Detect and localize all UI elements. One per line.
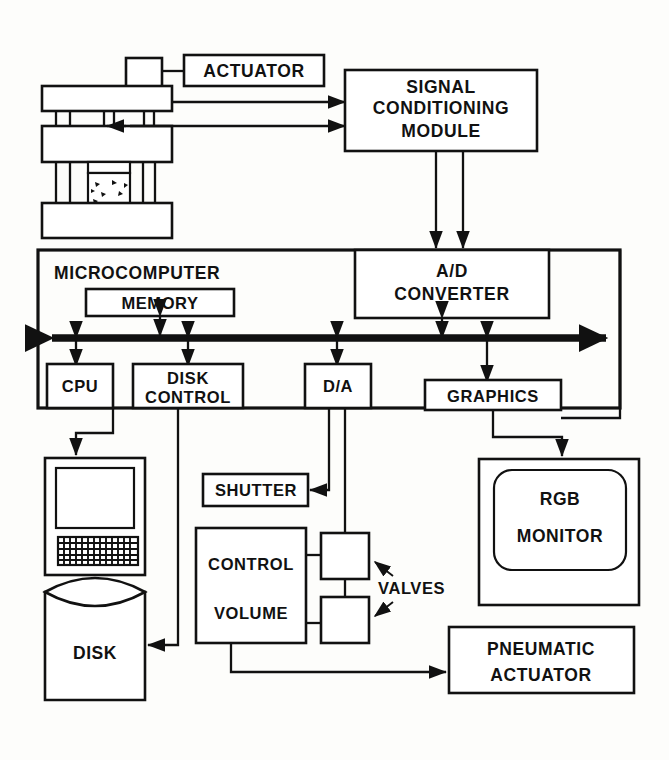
piston-block (126, 58, 162, 87)
signal-conditioning-module-block[interactable]: SIGNAL CONDITIONING MODULE (345, 70, 537, 248)
shutter-label: SHUTTER (215, 481, 297, 499)
terminal-screen (56, 468, 134, 528)
disk-label: DISK (73, 643, 117, 663)
control-volume-to-pneumatic-line (231, 643, 446, 672)
actuator-label: ACTUATOR (203, 61, 304, 81)
block-diagram-canvas: ACTUATOR SIGNAL CONDITIONING MODULE MICR… (0, 0, 669, 760)
top-crosshead (42, 86, 172, 111)
microcomputer-label: MICROCOMPUTER (54, 263, 220, 283)
valve-box-upper[interactable] (321, 533, 369, 579)
control-volume-block[interactable]: CONTROL VOLUME (196, 528, 306, 643)
ad-converter-label-line2: CONVERTER (394, 284, 509, 304)
memory-label: MEMORY (121, 294, 198, 312)
valves-pointer-lower (375, 602, 393, 616)
valves-pointer-upper (375, 562, 393, 576)
control-volume-label-line2: VOLUME (214, 604, 288, 622)
terminal-workstation (45, 458, 145, 575)
signal-conditioning-label-line3: MODULE (401, 121, 480, 141)
cpu-label: CPU (62, 377, 99, 395)
disk-control-label-line1: DISK (167, 369, 209, 387)
da-label: D/A (323, 377, 353, 395)
control-volume-box[interactable] (196, 528, 306, 643)
upper-platen (88, 162, 130, 173)
signal-conditioning-label-line2: CONDITIONING (373, 98, 510, 118)
signal-conditioning-label-line1: SIGNAL (406, 77, 476, 97)
control-volume-label-line1: CONTROL (208, 555, 294, 573)
rgb-monitor-block[interactable]: RGB MONITOR (479, 459, 639, 605)
disk-storage: DISK (45, 578, 145, 700)
da-to-shutter-line (310, 408, 329, 490)
microcomputer-enclosure: MICROCOMPUTER MEMORY A/D CONVERTER CPU D… (38, 250, 620, 410)
actuator-block[interactable]: ACTUATOR (184, 55, 324, 86)
pneumatic-actuator-label-line1: PNEUMATIC (487, 639, 595, 659)
disk-control-label-line2: CONTROL (145, 388, 231, 406)
frame-base (42, 203, 172, 238)
cpu-to-terminal-line (76, 408, 113, 455)
valves-label: VALVES (378, 579, 445, 597)
ad-converter-label-line1: A/D (436, 261, 468, 281)
shutter-block[interactable]: SHUTTER (203, 474, 308, 506)
pneumatic-actuator-block[interactable]: PNEUMATIC ACTUATOR (449, 627, 634, 693)
enclosure-right-edge-link (561, 250, 620, 418)
disk-control-to-disk-line (148, 408, 178, 645)
graphics-label: GRAPHICS (447, 387, 539, 405)
moving-crosshead (42, 126, 172, 162)
pneumatic-actuator-label-line2: ACTUATOR (490, 665, 591, 685)
valves-group[interactable]: VALVES (306, 533, 445, 643)
rgb-monitor-label-line1: RGB (540, 489, 581, 509)
diagram-page: ACTUATOR SIGNAL CONDITIONING MODULE MICR… (0, 0, 669, 760)
graphics-to-monitor-line (493, 410, 562, 456)
valve-box-lower[interactable] (321, 597, 369, 643)
rgb-monitor-label-line2: MONITOR (517, 526, 604, 546)
rgb-monitor-screen (494, 470, 626, 570)
